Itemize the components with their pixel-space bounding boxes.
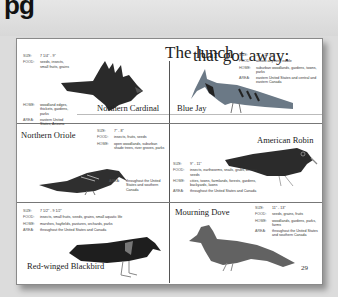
size-label: SIZE: xyxy=(173,162,190,166)
size-label: SIZE: xyxy=(239,53,256,57)
column-divider xyxy=(169,61,170,283)
blackbird-area: throughout the United States and Canada xyxy=(40,228,163,232)
food-label: FOOD: xyxy=(97,135,114,139)
oriole-food: insects, fruits, seeds xyxy=(114,135,167,139)
dove-size: 11" - 13" xyxy=(272,206,319,210)
size-label: SIZE: xyxy=(23,54,40,58)
home-label: HOME: xyxy=(23,222,40,226)
food-label: FOOD: xyxy=(173,168,190,177)
food-label: FOOD: xyxy=(239,59,256,63)
area-label: AREA: xyxy=(23,118,40,127)
cardinal-size: 7 1/4" - 9" xyxy=(40,54,73,58)
robin-name: American Robin xyxy=(257,135,313,145)
cardinal-name: Northern Cardinal xyxy=(97,103,159,113)
robin-food: insects, earthworms, snails, grubs, berr… xyxy=(190,168,263,177)
robin-home: cities, towns, farmlands, forests, garde… xyxy=(190,179,263,188)
area-label: AREA: xyxy=(109,179,126,192)
area-label: AREA: xyxy=(23,228,40,232)
blackbird-name: Red-winged Blackbird xyxy=(27,261,104,271)
dove-name: Mourning Dove xyxy=(175,207,230,217)
home-label: HOME: xyxy=(173,179,190,188)
robin-facts: SIZE:9" - 11" FOOD:insects, earthworms, … xyxy=(173,162,263,196)
robin-size: 9" - 11" xyxy=(190,162,263,166)
area-label: AREA: xyxy=(173,189,190,193)
size-label: SIZE: xyxy=(23,209,40,213)
blackbird-food: insects, small fruits, seeds, grains, sm… xyxy=(40,215,163,219)
cardinal-name-rule xyxy=(77,114,169,115)
row-divider-2 xyxy=(17,202,322,203)
bluejay-size: 11" - 12 1/2" xyxy=(256,53,319,57)
oriole-size: 7" - 8" xyxy=(114,129,167,133)
blackbird-facts: SIZE:7 1/2" - 9 1/2" FOOD:insects, small… xyxy=(23,209,163,234)
page-heading-partial: pg xyxy=(4,0,34,21)
book-page: The lunch that got away: SIZE:7 1/4" - 9… xyxy=(16,38,323,285)
size-label: SIZE: xyxy=(97,129,114,133)
blackbird-home: marshes, hayfields, pastures, orchards, … xyxy=(40,222,163,226)
food-label: FOOD: xyxy=(23,215,40,219)
page-background-strip: pg xyxy=(0,0,338,36)
blackbird-size: 7 1/2" - 9 1/2" xyxy=(40,209,163,213)
oriole-name: Northern Oriole xyxy=(21,130,76,140)
oriole-facts-bottom: AREA:throughout the United States and so… xyxy=(109,179,167,194)
dove-food: seeds, grains, fruits xyxy=(272,212,319,216)
oriole-facts-top: SIZE:7" - 8" FOOD:insects, fruits, seeds… xyxy=(97,129,167,152)
home-label: HOME: xyxy=(97,142,114,151)
page-number: 29 xyxy=(301,264,308,272)
oriole-home: open woodlands, suburban shade trees, ri… xyxy=(114,142,167,151)
oriole-area: throughout the United States and souther… xyxy=(126,179,167,192)
food-label: FOOD: xyxy=(255,212,272,216)
bluejay-name: Blue Jay xyxy=(177,103,207,113)
bluejay-food: almost anything edible xyxy=(256,59,319,63)
size-label: SIZE: xyxy=(255,206,272,210)
robin-area: throughout the United States and Canada xyxy=(190,189,263,193)
cardinal-area: eastern United States, Arizona xyxy=(40,118,73,127)
home-label: HOME: xyxy=(23,103,40,116)
dove-illustration xyxy=(187,223,297,273)
food-label: FOOD: xyxy=(23,60,40,69)
